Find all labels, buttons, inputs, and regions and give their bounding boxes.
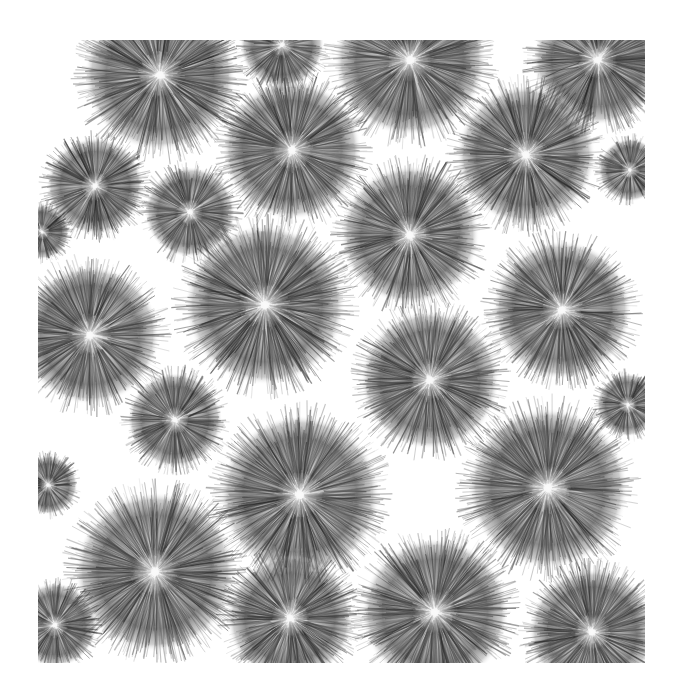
- fuzzy-seedheads-image: [38, 40, 645, 663]
- image-canvas: [38, 40, 645, 663]
